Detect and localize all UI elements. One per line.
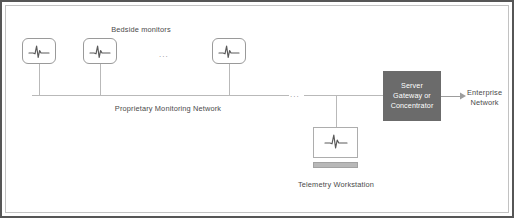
enterprise-network-line-1: Enterprise: [467, 88, 502, 98]
enterprise-arrow-icon: [441, 93, 466, 100]
server-box-line-3: Concentrator: [391, 101, 434, 111]
enterprise-network-line-2: Network: [467, 98, 502, 108]
telemetry-workstation-label: Telemetry Workstation: [298, 180, 374, 190]
diagram-screenshot: ... Bedside monitors ... Proprietary Mon…: [0, 0, 514, 218]
bus-ellipsis: ...: [290, 91, 300, 99]
enterprise-network-label: Enterprise Network: [467, 88, 502, 108]
ecg-waveform-icon: [28, 43, 50, 59]
server-gateway-concentrator-box[interactable]: Server Gateway or Concentrator: [383, 71, 441, 121]
bedside-monitor-2[interactable]: [83, 38, 117, 64]
telemetry-workstation-keyboard[interactable]: [313, 162, 358, 168]
proprietary-network-label: Proprietary Monitoring Network: [115, 104, 221, 114]
bedside-monitor-1[interactable]: [22, 38, 56, 64]
ecg-waveform-icon: [323, 131, 349, 154]
telemetry-workstation-screen[interactable]: [313, 127, 358, 158]
server-box-line-1: Server: [391, 81, 434, 91]
bedside-monitors-label: Bedside monitors: [111, 25, 171, 35]
ecg-waveform-icon: [89, 43, 111, 59]
bedside-monitor-3[interactable]: [212, 38, 246, 64]
bedside-monitors-ellipsis: ...: [159, 51, 169, 59]
server-box-line-2: Gateway or: [391, 91, 434, 101]
ecg-waveform-icon: [218, 43, 240, 59]
